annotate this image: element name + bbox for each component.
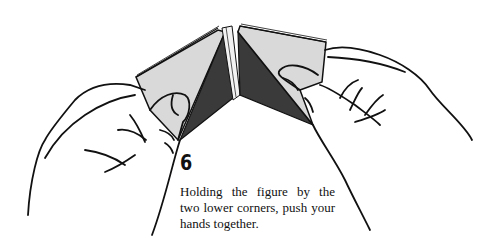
caption-line-1: Holding the figure by the — [180, 184, 335, 200]
caption-line-2: two lower corners, push your — [180, 200, 335, 216]
step-number: 6 — [180, 150, 192, 175]
caption: Holding the figure by the two lower corn… — [180, 184, 335, 232]
caption-line-3: hands together. — [180, 216, 335, 232]
